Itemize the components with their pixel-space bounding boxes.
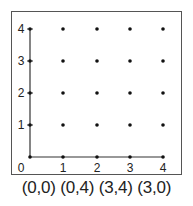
x-tick-label: 4 — [160, 161, 167, 175]
x-tick-label: 1 — [60, 161, 67, 175]
y-tick-label: 1 — [18, 118, 25, 132]
grid-dots — [28, 27, 165, 159]
y-tick-label: 3 — [18, 54, 25, 68]
y-tick-label: 4 — [18, 22, 25, 36]
coordinate-grid: 4 3 2 1 0 1 2 3 4 — [0, 0, 193, 206]
x-tick-label: 2 — [94, 161, 101, 175]
points-caption: (0,0) (0,4) (3,4) (3,0) — [0, 178, 193, 198]
origin-label: 0 — [18, 161, 25, 175]
x-tick-label: 3 — [127, 161, 134, 175]
y-tick-label: 2 — [18, 86, 25, 100]
